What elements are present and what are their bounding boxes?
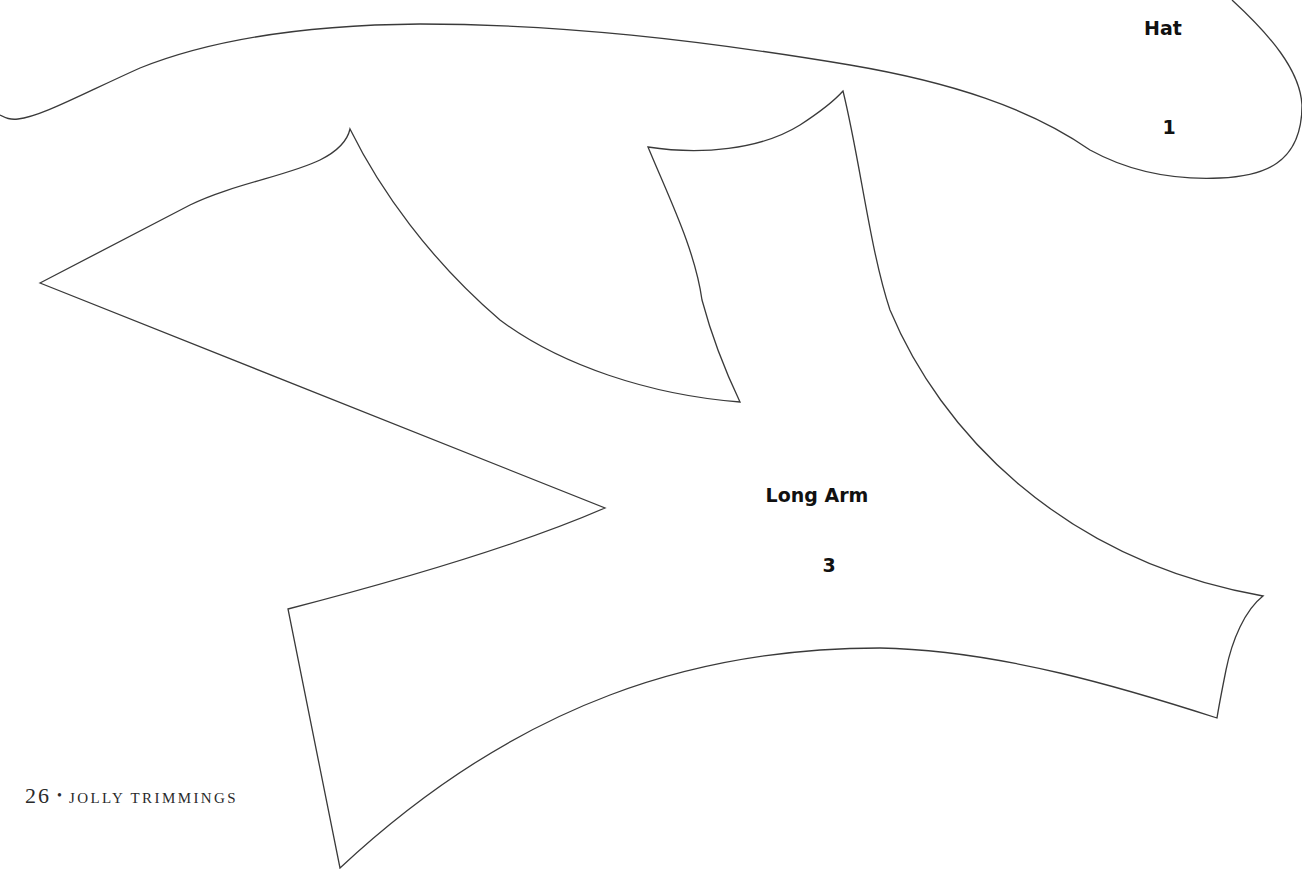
pattern-outlines xyxy=(0,0,1302,869)
long-arm-piece-number: 3 xyxy=(822,554,835,576)
hat-piece-label: Hat xyxy=(1144,17,1182,39)
hat-piece-number: 1 xyxy=(1162,116,1175,138)
pattern-page: Hat 1 Long Arm 3 26•Jolly Trimmings xyxy=(0,0,1302,869)
hat-piece-outline xyxy=(0,0,1302,178)
long-arm-piece-label: Long Arm xyxy=(766,484,869,506)
long-arm-piece-outline xyxy=(40,91,1263,868)
book-title: Jolly Trimmings xyxy=(69,790,238,806)
page-footer: 26•Jolly Trimmings xyxy=(25,783,238,809)
separator-bullet-icon: • xyxy=(57,788,63,803)
page-number: 26 xyxy=(25,783,51,808)
